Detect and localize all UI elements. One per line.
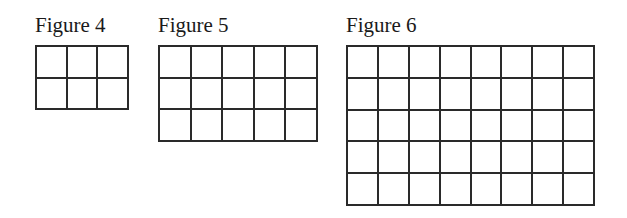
grid-cell — [348, 174, 379, 206]
grid-cell — [37, 47, 68, 79]
figure-6-label: Figure 6 — [346, 15, 417, 36]
grid-cell — [564, 142, 595, 174]
grid-cell — [37, 79, 68, 111]
grid-cell — [98, 79, 129, 111]
grid-cell — [379, 47, 410, 79]
grid-cell — [533, 174, 564, 206]
grid-cell — [160, 47, 192, 79]
grid-cell — [192, 110, 224, 142]
figure-5-label: Figure 5 — [158, 15, 229, 36]
grid-cell — [502, 79, 533, 111]
grid-cell — [410, 47, 441, 79]
grid-cell — [472, 79, 503, 111]
grid-cell — [255, 79, 287, 111]
grid-cell — [348, 142, 379, 174]
grid-cell — [533, 111, 564, 143]
grid-cell — [533, 142, 564, 174]
figure-4-label: Figure 4 — [35, 15, 106, 36]
grid-cell — [379, 111, 410, 143]
figure-5-grid — [158, 45, 318, 142]
grid-cell — [472, 142, 503, 174]
grid-cell — [192, 79, 224, 111]
grid-cell — [564, 174, 595, 206]
grid-cell — [410, 174, 441, 206]
grid-cell — [410, 142, 441, 174]
grid-cell — [255, 47, 287, 79]
grid-cell — [441, 111, 472, 143]
grid-cell — [286, 47, 318, 79]
grid-cell — [533, 47, 564, 79]
grid-cell — [160, 110, 192, 142]
grid-cell — [564, 111, 595, 143]
grid-cell — [255, 110, 287, 142]
grid-cell — [379, 79, 410, 111]
grid-cell — [472, 174, 503, 206]
grid-cell — [410, 79, 441, 111]
grid-cell — [472, 47, 503, 79]
grid-cell — [441, 79, 472, 111]
grid-cell — [286, 79, 318, 111]
grid-cell — [441, 142, 472, 174]
grid-cell — [502, 111, 533, 143]
grid-cell — [533, 79, 564, 111]
grid-cell — [98, 47, 129, 79]
grid-cell — [68, 47, 99, 79]
grid-cell — [502, 142, 533, 174]
grid-cell — [348, 111, 379, 143]
grid-cell — [348, 79, 379, 111]
grid-cell — [472, 111, 503, 143]
grid-cell — [68, 79, 99, 111]
figure-4-grid — [35, 45, 129, 110]
grid-cell — [160, 79, 192, 111]
grid-cell — [441, 174, 472, 206]
grid-cell — [223, 47, 255, 79]
grid-cell — [192, 47, 224, 79]
grid-cell — [502, 47, 533, 79]
grid-cell — [379, 142, 410, 174]
grid-cell — [441, 47, 472, 79]
figure-6-grid — [346, 45, 595, 206]
grid-cell — [379, 174, 410, 206]
grid-cell — [223, 110, 255, 142]
grid-cell — [348, 47, 379, 79]
grid-cell — [223, 79, 255, 111]
grid-cell — [410, 111, 441, 143]
grid-cell — [286, 110, 318, 142]
grid-cell — [564, 47, 595, 79]
grid-cell — [502, 174, 533, 206]
grid-cell — [564, 79, 595, 111]
